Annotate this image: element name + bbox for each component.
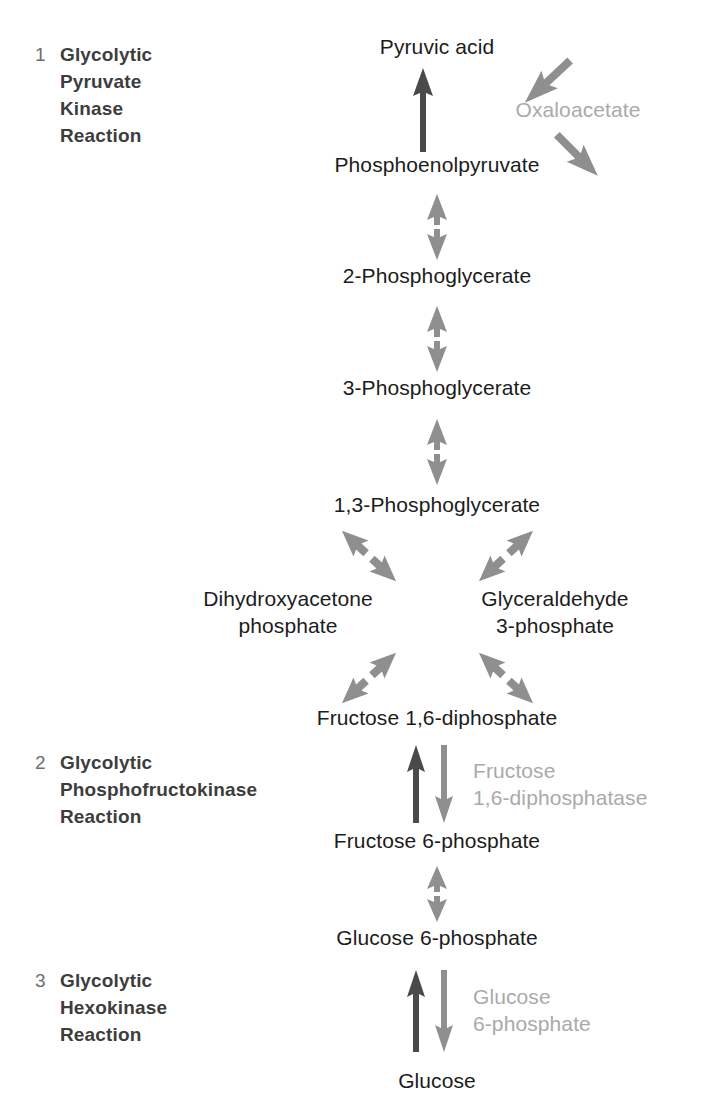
- arrow-3pg-13pg: [423, 419, 451, 485]
- section-number-1: 1: [35, 41, 46, 68]
- arrow-g6p-to-glucose: [432, 970, 456, 1052]
- arrow-pep-to-pyruvate: [410, 68, 436, 152]
- glycolysis-gluconeogenesis-diagram: 1 Glycolytic Pyruvate Kinase Reaction 2 …: [0, 0, 706, 1116]
- arrow-glucose-to-g6p: [404, 970, 428, 1052]
- metabolite-phosphoenolpyruvate: Phosphoenolpyruvate: [334, 152, 539, 178]
- arrow-gap-fdp: [460, 643, 552, 713]
- metabolite-2-phosphoglycerate: 2-Phosphoglycerate: [343, 263, 532, 289]
- metabolite-glucose-6-phosphate: Glucose 6-phosphate: [336, 925, 538, 951]
- metabolite-glyceraldehyde-3-phosphate: Glyceraldehyde 3-phosphate: [481, 585, 628, 639]
- section-title-2: Glycolytic Phosphofructokinase Reaction: [60, 749, 257, 830]
- metabolite-3-phosphoglycerate: 3-Phosphoglycerate: [343, 375, 532, 401]
- arrow-oxaloacetate-to-pep: [543, 126, 613, 186]
- arrow-13pg-gap: [460, 521, 552, 591]
- section-title-3: Glycolytic Hexokinase Reaction: [60, 967, 167, 1048]
- arrow-13pg-dhap: [323, 521, 415, 591]
- arrow-2pg-3pg: [423, 306, 451, 372]
- arrow-fdp-to-f6p: [432, 745, 456, 823]
- arrow-pyruvate-to-oxaloacetate: [508, 52, 584, 114]
- section-title-1: Glycolytic Pyruvate Kinase Reaction: [60, 41, 152, 149]
- metabolite-fructose-6-phosphate: Fructose 6-phosphate: [334, 828, 540, 854]
- metabolite-dihydroxyacetone-phosphate: Dihydroxyacetone phosphate: [203, 585, 373, 639]
- arrow-g6p-f6p: [423, 866, 451, 922]
- arrow-dhap-fdp: [323, 643, 415, 713]
- metabolite-1-3-phosphoglycerate: 1,3-Phosphoglycerate: [334, 492, 540, 518]
- arrow-pep-2pg: [423, 194, 451, 260]
- enzyme-glucose-6-phosphatase: Glucose 6-phosphate: [473, 983, 591, 1037]
- section-number-2: 2: [35, 749, 46, 776]
- metabolite-pyruvic-acid: Pyruvic acid: [380, 34, 494, 60]
- enzyme-fructose-1-6-diphosphatase: Fructose 1,6-diphosphatase: [473, 757, 648, 811]
- section-number-3: 3: [35, 967, 46, 994]
- metabolite-glucose: Glucose: [398, 1068, 476, 1094]
- arrow-f6p-to-fdp: [404, 745, 428, 823]
